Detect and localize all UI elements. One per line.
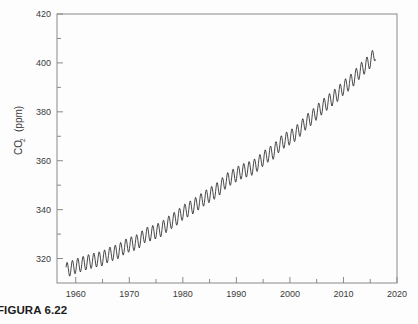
x-tick-label: 1980 (173, 289, 193, 299)
y-tick-label: 320 (36, 254, 51, 264)
x-tick-label: 2000 (280, 289, 300, 299)
y-axis-title: CO 2 (ppm) (13, 106, 26, 155)
y-axis-title-subscript: 2 (19, 138, 26, 142)
y-tick-label: 400 (36, 58, 51, 68)
y-axis-title-unit: (ppm) (13, 106, 24, 132)
x-tick-label: 1960 (66, 289, 86, 299)
x-tick-label: 2020 (387, 289, 407, 299)
x-tick-label: 1970 (119, 289, 139, 299)
y-tick-label: 420 (36, 9, 51, 19)
y-tick-label: 360 (36, 156, 51, 166)
x-tick-label: 1990 (226, 289, 246, 299)
x-tick-label: 2010 (333, 289, 353, 299)
co2-keeling-curve-chart: 320340360380400420 196019701980199020002… (0, 0, 418, 324)
x-axis-tick-labels: 1960197019801990200020102020 (66, 289, 407, 299)
y-tick-label: 380 (36, 107, 51, 117)
figure-caption: FIGURA 6.22 (0, 304, 67, 316)
y-axis-tick-labels: 320340360380400420 (36, 9, 51, 264)
plot-frame (57, 14, 397, 283)
y-tick-label: 340 (36, 205, 51, 215)
figure-container: 320340360380400420 196019701980199020002… (0, 0, 418, 324)
